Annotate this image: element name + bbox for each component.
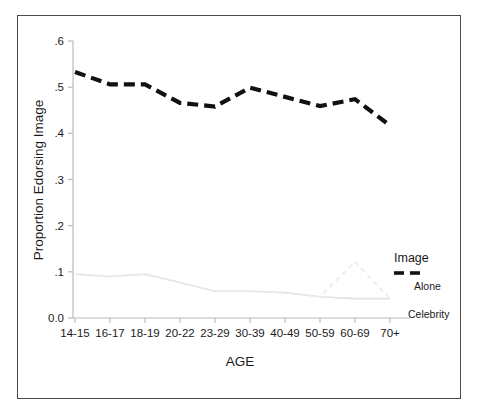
- x-tick-label: 20-22: [165, 327, 194, 339]
- x-tick-label: 40-49: [270, 327, 299, 339]
- line-chart: 0.0.1.2.3.4.5.6 14-1516-1718-1920-2223-2…: [0, 0, 482, 416]
- x-tick-label: 60-69: [340, 327, 369, 339]
- x-axis-ticks: 14-1516-1718-1920-2223-2930-3940-4950-59…: [60, 318, 400, 339]
- legend-label-celebrity: Celebrity: [408, 308, 450, 320]
- legend: Image Alone Celebrity: [394, 251, 450, 320]
- y-tick-label: .2: [54, 220, 64, 232]
- y-tick-label: .3: [54, 174, 64, 186]
- series-layer: [75, 72, 390, 299]
- x-tick-label: 30-39: [235, 327, 264, 339]
- figure-root: 0.0.1.2.3.4.5.6 14-1516-1718-1920-2223-2…: [0, 0, 482, 416]
- legend-label-image: Image: [394, 251, 429, 265]
- y-tick-label: .6: [54, 35, 64, 47]
- y-axis-ticks: 0.0.1.2.3.4.5.6: [48, 35, 73, 324]
- x-axis-title: AGE: [226, 354, 255, 369]
- x-tick-label: 18-19: [130, 327, 159, 339]
- x-tick-label: 16-17: [95, 327, 124, 339]
- x-tick-label: 14-15: [60, 327, 89, 339]
- series-line-alone: [75, 274, 390, 298]
- x-tick-label: 23-29: [200, 327, 229, 339]
- y-axis-title: Proportion Edorsing Image: [31, 100, 46, 261]
- x-tick-label: 50-59: [305, 327, 334, 339]
- y-tick-label: .4: [54, 127, 64, 139]
- legend-label-alone: Alone: [414, 280, 441, 292]
- series-line-image: [75, 72, 390, 126]
- series-line-celebrity: [75, 262, 390, 299]
- y-tick-label: 0.0: [48, 312, 64, 324]
- x-tick-label: 70+: [380, 327, 400, 339]
- y-tick-label: .1: [54, 266, 64, 278]
- y-tick-label: .5: [54, 81, 64, 93]
